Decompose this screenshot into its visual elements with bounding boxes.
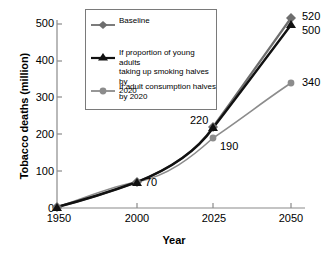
tobacco-deaths-line-chart: Tobacco deaths (million) 0 100 200 300 4… bbox=[0, 0, 336, 264]
legend: Baseline If proportion of young adults t… bbox=[85, 9, 217, 110]
legend-item-adult-consumption[interactable]: If adult consumption halves by 2020 bbox=[90, 82, 217, 101]
y-axis-ticks bbox=[57, 24, 62, 208]
legend-label-adult-consumption-line-1: If adult consumption halves bbox=[119, 82, 217, 92]
legend-item-baseline[interactable]: Baseline bbox=[90, 16, 217, 29]
legend-label-baseline: Baseline bbox=[116, 16, 217, 26]
data-label-520: 520 bbox=[302, 10, 320, 22]
legend-marker-diamond-icon bbox=[90, 17, 116, 29]
data-label-190: 190 bbox=[220, 140, 238, 152]
data-label-220: 220 bbox=[190, 114, 208, 126]
legend-label-adult-consumption-line-2: by 2020 bbox=[119, 92, 217, 102]
legend-label-adult-consumption: If adult consumption halves by 2020 bbox=[116, 82, 217, 101]
data-label-70: 70 bbox=[145, 176, 157, 188]
legend-marker-circle-icon bbox=[90, 83, 116, 95]
data-label-500: 500 bbox=[302, 24, 320, 36]
x-axis-ticks bbox=[57, 203, 291, 208]
legend-marker-triangle-icon bbox=[90, 49, 116, 61]
legend-label-young-adults-line-1: If proportion of young adults bbox=[119, 48, 217, 67]
data-label-340: 340 bbox=[302, 76, 320, 88]
